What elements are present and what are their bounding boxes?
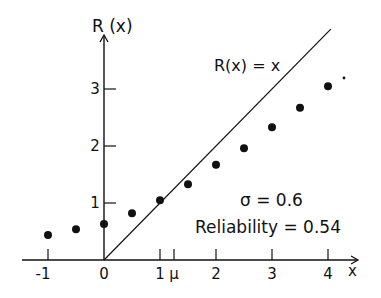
data-point xyxy=(44,231,52,239)
x-tick-label: 2 xyxy=(211,265,221,283)
data-point xyxy=(128,209,136,217)
x-tick-label: 3 xyxy=(267,265,277,283)
x-tick-label: -1 xyxy=(36,265,51,283)
x-tick-label: 1 xyxy=(155,265,165,283)
sigma-annotation: σ = 0.6 xyxy=(240,190,303,210)
ticks: -101μ234123 xyxy=(36,80,333,283)
y-tick-label: 1 xyxy=(90,194,100,212)
y-tick-label: 3 xyxy=(90,80,100,98)
reliability-annotation: Reliability = 0.54 xyxy=(195,217,341,237)
data-point xyxy=(156,196,164,204)
data-point xyxy=(100,220,108,228)
x-tick-label: 4 xyxy=(323,265,333,283)
data-point xyxy=(184,180,192,188)
x-tick-label: 0 xyxy=(99,265,109,283)
y-tick-label: 2 xyxy=(90,137,100,155)
line-label: R(x) = x xyxy=(214,56,280,75)
data-point xyxy=(268,123,276,131)
data-point xyxy=(72,225,80,233)
data-point xyxy=(324,82,332,90)
data-point xyxy=(240,144,248,152)
speck-mark xyxy=(343,77,346,80)
data-point xyxy=(296,104,304,112)
x-tick-label: μ xyxy=(169,265,179,283)
reliability-chart: -101μ234123 R (x) x R(x) = x σ = 0.6 Rel… xyxy=(0,0,381,298)
x-axis-label: x xyxy=(348,262,357,280)
y-axis-label: R (x) xyxy=(92,16,133,36)
plot-area: -101μ234123 R (x) x R(x) = x σ = 0.6 Rel… xyxy=(0,0,381,298)
data-point xyxy=(212,161,220,169)
